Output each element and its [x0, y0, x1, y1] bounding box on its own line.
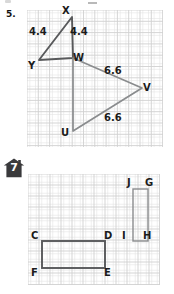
rectangle-cdef — [42, 241, 105, 268]
vertex-label-f: F — [31, 268, 38, 278]
geometry-figure-7 — [28, 174, 160, 285]
worksheet-page: 5. — [0, 0, 174, 294]
problem-number-5: 5. — [6, 9, 16, 19]
figure-grid-problem-5 — [27, 10, 163, 147]
vertex-label-g: G — [145, 178, 153, 188]
vertex-label-x: X — [62, 6, 70, 16]
problem-number-7-label: 7 — [3, 162, 25, 173]
scan-artifact-strip — [0, 0, 174, 7]
vertex-label-v: V — [143, 83, 151, 93]
side-length-uv: 6.6 — [104, 113, 122, 123]
triangle-xyw — [39, 17, 73, 60]
scan-artifact-mark-center — [88, 2, 97, 4]
geometry-figure-5 — [27, 10, 163, 147]
vertex-label-h: H — [143, 231, 151, 241]
vertex-label-j: J — [127, 178, 131, 188]
vertex-label-w: W — [73, 53, 84, 63]
vertex-label-u: U — [61, 128, 69, 138]
scan-artifact-mark-left — [5, 0, 11, 3]
vertex-label-e: E — [104, 268, 111, 278]
vertex-label-d: D — [104, 231, 112, 241]
side-length-xy: 4.4 — [29, 27, 47, 37]
vertex-label-i: I — [122, 231, 126, 241]
side-length-wv: 6.6 — [104, 66, 122, 76]
figure-grid-problem-7 — [28, 174, 160, 285]
vertex-label-c: C — [31, 231, 38, 241]
vertex-label-y: Y — [28, 61, 35, 71]
side-length-xw: 4.4 — [70, 27, 88, 37]
problem-number-7-house-badge: 7 — [3, 158, 25, 178]
